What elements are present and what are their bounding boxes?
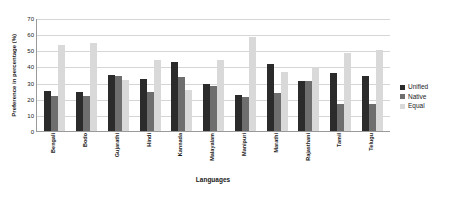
x-axis-tick-labels: BengaliBodoGujarathiHindiKannadaMalayala…	[36, 133, 390, 173]
bar	[83, 96, 90, 132]
bar	[58, 45, 65, 131]
bar	[210, 86, 217, 131]
bar	[115, 76, 122, 131]
bar-group	[71, 19, 103, 131]
x-axis-tick-label-text: Hindi	[147, 133, 153, 147]
bar	[147, 92, 154, 131]
x-axis-tick-label-text: Gujarathi	[115, 133, 121, 157]
x-axis-tick-label: Kannada	[165, 133, 197, 173]
legend-item[interactable]: Equal	[400, 103, 428, 110]
bar	[76, 92, 83, 131]
bar-group	[325, 19, 357, 131]
bar-chart: Preference in percentage (%) 01020304050…	[0, 0, 473, 199]
x-axis-tick-label-text: Bengali	[51, 133, 57, 153]
bar-group	[261, 19, 293, 131]
bar	[330, 73, 337, 131]
y-axis-tick-label: 20	[27, 97, 34, 103]
legend-swatch-icon	[400, 94, 405, 99]
x-axis-tick-label: Bodo	[70, 133, 102, 173]
bar-groups	[37, 19, 390, 131]
x-axis-tick-label: Tamil	[324, 133, 356, 173]
bar-group	[198, 19, 230, 131]
x-axis-tick-label: Hindi	[133, 133, 165, 173]
y-axis-tick-label: 30	[27, 81, 34, 87]
bar	[305, 81, 312, 131]
y-axis-title-text: Preference in percentage (%)	[11, 34, 17, 117]
legend-swatch-icon	[400, 85, 405, 90]
bar	[312, 67, 319, 131]
bar	[235, 95, 242, 131]
bar	[140, 79, 147, 131]
chart-legend: UnifiedNativeEqual	[400, 84, 428, 110]
y-axis-title: Preference in percentage (%)	[6, 0, 22, 150]
bar-group	[39, 19, 71, 131]
legend-item[interactable]: Native	[400, 94, 428, 101]
bar	[242, 97, 249, 131]
bar	[44, 91, 51, 131]
bar	[369, 104, 376, 131]
bar	[274, 93, 281, 131]
x-axis-tick-label-text: Kannada	[178, 133, 184, 156]
bar-group	[229, 19, 261, 131]
x-axis-tick-label: Marathi	[261, 133, 293, 173]
bar	[122, 80, 129, 131]
bar	[344, 53, 351, 131]
bar	[337, 104, 344, 131]
plot-area: 010203040506070	[36, 19, 390, 132]
bar	[281, 72, 288, 131]
x-axis-tick-label-text: Manipuri	[242, 133, 248, 156]
bar	[298, 81, 305, 131]
x-axis-tick-label: Gujarathi	[102, 133, 134, 173]
x-axis-tick-label-text: Bodo	[83, 133, 89, 147]
y-axis-tick-label: 40	[27, 64, 34, 70]
legend-item[interactable]: Unified	[400, 84, 428, 91]
x-axis-tick-label-text: Rajasthani	[306, 133, 312, 161]
x-axis-tick-label: Bengali	[38, 133, 70, 173]
legend-item-label: Equal	[408, 103, 425, 110]
bar	[171, 62, 178, 131]
bar	[267, 64, 274, 131]
x-axis-tick-label: Malayalam	[197, 133, 229, 173]
bar-group	[134, 19, 166, 131]
bar-group	[356, 19, 388, 131]
x-axis-tick-label-text: Malayalam	[210, 133, 216, 161]
y-axis-tick-label: 60	[27, 32, 34, 38]
x-axis-tick-label-text: Marathi	[274, 133, 280, 153]
x-axis-tick-label-text: Tamil	[337, 133, 343, 147]
bar	[185, 90, 192, 131]
x-axis-tick-label-text: Telugu	[369, 133, 375, 151]
bar	[154, 60, 161, 131]
x-axis-tick-label: Rajasthani	[293, 133, 325, 173]
bar	[51, 96, 58, 131]
bar-group	[102, 19, 134, 131]
bar-group	[166, 19, 198, 131]
bar	[90, 43, 97, 131]
y-axis-tick-label: 50	[27, 48, 34, 54]
bar	[108, 75, 115, 132]
bar	[178, 77, 185, 131]
x-axis-title: Languages	[36, 176, 390, 183]
y-axis-tick-label: 0	[31, 129, 34, 135]
legend-item-label: Unified	[408, 84, 428, 91]
bar	[249, 37, 256, 131]
x-axis-tick-label: Manipuri	[229, 133, 261, 173]
y-axis-tick-label: 10	[27, 113, 34, 119]
y-axis-tick-label: 70	[27, 16, 34, 22]
bar	[376, 50, 383, 131]
bar	[203, 84, 210, 131]
bar	[362, 76, 369, 131]
x-axis-tick-label: Telugu	[356, 133, 388, 173]
bar	[217, 60, 224, 131]
bar-group	[293, 19, 325, 131]
legend-item-label: Native	[408, 94, 426, 101]
legend-swatch-icon	[400, 104, 405, 109]
